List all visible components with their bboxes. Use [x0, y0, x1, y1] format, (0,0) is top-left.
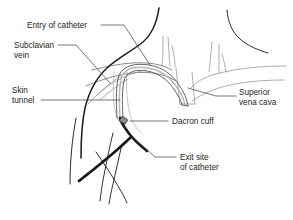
subclavian-vein-inferior-wall [86, 72, 176, 86]
leader-subclavian-vein [58, 45, 110, 83]
label-skin-tunnel-line2: tunnel [12, 96, 34, 105]
right-jugular-vessel-branchlet [222, 54, 226, 72]
catheter-tip [182, 105, 188, 106]
label-entry-of-catheter: Entry of catheter [27, 21, 87, 30]
label-superior-vena-cava-line2: vena cava [239, 98, 277, 107]
skin-tunnel-edge-right [127, 72, 141, 133]
left-jugular-vessel-outer [162, 36, 163, 66]
catheter-external-limb [79, 137, 131, 181]
svc-right-wall [192, 72, 195, 104]
leader-exit-site-of-catheter [133, 137, 176, 157]
chest-flank-contour [70, 118, 76, 184]
right-jugular-vessel-outer [209, 42, 212, 72]
subclavian-vein-superior-wall [92, 63, 172, 70]
diagram-canvas: Entry of catheter Subclavian vein Skin t… [0, 0, 293, 220]
label-superior-vena-cava-line1: Superior [239, 88, 270, 97]
catheter-group [79, 64, 188, 204]
right-brachiocephalic-vein-upper [191, 66, 286, 88]
label-dacron-cuff: Dacron cuff [172, 117, 214, 126]
left-jugular-vessel-branchlet [172, 46, 175, 67]
catheter-diagram: Entry of catheter Subclavian vein Skin t… [0, 0, 293, 220]
leader-superior-vena-cava [188, 88, 236, 96]
left-jugular-vessel-inner [168, 37, 170, 66]
label-skin-tunnel-line1: Skin [12, 86, 28, 95]
neck-and-shoulder-outline-right [227, 10, 268, 53]
label-subclavian-vein-line2: vein [14, 51, 29, 60]
label-subclavian-vein-line1: Subclavian [14, 41, 55, 50]
label-exit-site-line2: of catheter [180, 163, 219, 172]
label-exit-site-line1: Exit site [180, 153, 209, 162]
leader-entry-of-catheter [101, 25, 150, 65]
